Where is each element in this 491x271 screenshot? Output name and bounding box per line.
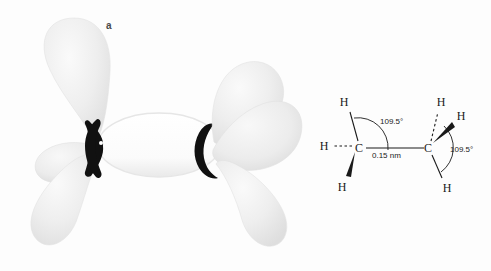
angle-label-left: 109.5° [380,117,403,126]
ethane-structure-svg: H H H C C H H H 109.5° 0.15 nm 109.5° [310,0,491,271]
bond-right-c-to-h-bottom [432,155,442,178]
panel-a-label: a [106,20,112,31]
atom-label-h-left-bottom: H [338,180,347,194]
atom-label-h-left-top: H [340,95,349,109]
lobe-lower-right [216,160,287,246]
scientific-figure: a H H H C [0,0,491,271]
atom-label-h-left-side: H [320,139,329,153]
atom-label-carbon-left: C [355,141,363,155]
node-left-highlight [99,141,103,145]
atom-label-h-right-top: H [437,95,446,109]
bond-right-c-to-h-wedge [433,122,455,143]
bond-length-label: 0.15 nm [372,151,401,160]
panel-a-orbital-diagram: a [0,0,310,271]
angle-label-right: 109.5° [450,145,473,154]
orbital-overlap-svg [0,0,310,271]
atom-label-h-right-wedge: H [457,109,466,123]
atom-label-carbon-right: C [424,141,432,155]
bond-left-c-to-h-top [350,112,358,141]
panel-b-structure-diagram: H H H C C H H H 109.5° 0.15 nm 109.5° b [310,0,491,271]
atom-label-h-right-bottom: H [443,181,452,195]
bond-right-c-to-h-top [431,112,438,141]
bond-left-c-to-h-wedge [346,152,355,177]
